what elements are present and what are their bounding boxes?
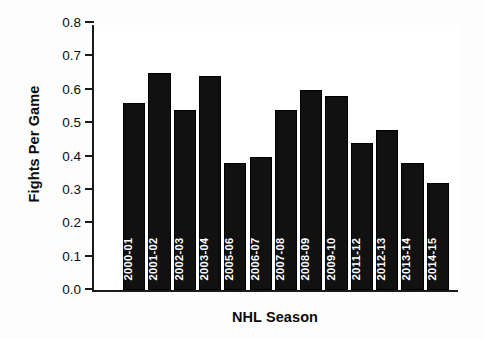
chart-figure: Fights Per Game 0.00.10.20.30.40.50.60.7…: [0, 0, 484, 339]
bar-category-label: 2000-01: [123, 237, 134, 280]
bar: 2003-04: [199, 76, 221, 290]
bar-category-label: 2011-12: [351, 238, 362, 281]
y-axis-tick-label: 0.7: [62, 46, 81, 65]
y-axis-tick-label: 0.3: [62, 180, 81, 199]
x-axis-title: NHL Season: [92, 309, 458, 325]
y-axis-tick-label: 0.8: [62, 13, 81, 32]
bar: 2006-07: [250, 157, 272, 291]
y-axis-tick: 0.5: [85, 121, 94, 123]
y-axis-tick-label: 0.4: [62, 147, 81, 166]
y-axis-tick: 0.0: [85, 288, 94, 290]
bar-category-label: 2008-09: [300, 237, 311, 280]
y-axis-tick: 0.8: [85, 21, 94, 23]
bar: 2000-01: [123, 103, 145, 290]
y-axis-tick-label: 0.1: [62, 247, 81, 266]
plot-area: 0.00.10.20.30.40.50.60.70.8 2000-012001-…: [92, 25, 458, 292]
bar: 2005-06: [224, 163, 246, 290]
bar-category-label: 2006-07: [250, 237, 261, 280]
bar-category-label: 2002-03: [174, 237, 185, 280]
y-axis-tick-label: 0.0: [62, 280, 81, 299]
bar-category-label: 2012-13: [376, 237, 387, 280]
bar: 2012-13: [376, 130, 398, 290]
bar: 2011-12: [351, 143, 373, 290]
bar-category-label: 2001-02: [148, 237, 159, 280]
bar: 2013-14: [401, 163, 423, 290]
bar-category-label: 2014-15: [427, 237, 438, 280]
y-axis-title: Fights Per Game: [26, 54, 42, 234]
bar: 2008-09: [300, 90, 322, 290]
y-axis-tick-label: 0.5: [62, 113, 81, 132]
bar: 2001-02: [148, 73, 170, 290]
y-axis-tick: 0.1: [85, 255, 94, 257]
bar: 2014-15: [427, 183, 449, 290]
bar-category-label: 2005-06: [224, 237, 235, 280]
y-axis-tick-label: 0.2: [62, 213, 81, 232]
bar: 2007-08: [275, 110, 297, 290]
y-axis-tick: 0.4: [85, 155, 94, 157]
bar-category-label: 2009-10: [326, 237, 337, 280]
bar-category-label: 2007-08: [275, 237, 286, 280]
y-axis-tick: 0.6: [85, 88, 94, 90]
bar-category-label: 2003-04: [199, 237, 210, 280]
bar: 2002-03: [174, 110, 196, 290]
y-axis-tick: 0.7: [85, 54, 94, 56]
bar: 2009-10: [325, 96, 347, 290]
y-axis-tick: 0.3: [85, 188, 94, 190]
y-axis-tick-label: 0.6: [62, 80, 81, 99]
bar-category-label: 2013-14: [401, 237, 412, 280]
y-axis-tick: 0.2: [85, 221, 94, 223]
